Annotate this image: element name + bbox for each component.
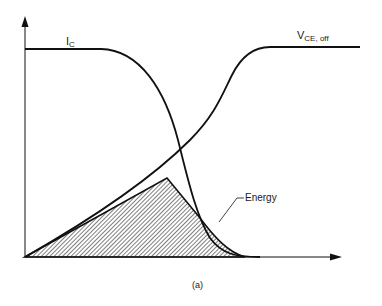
collector-current-label-sub: C [69, 40, 75, 49]
collector-emitter-voltage-label: VCE, off [297, 30, 329, 43]
energy-leader-line [219, 198, 244, 222]
energy-area [25, 178, 245, 257]
figure-caption: (a) [192, 281, 203, 290]
x-axis-arrow-icon [330, 254, 342, 261]
collector-current-label: IC [66, 36, 75, 49]
vce-label-sub: CE, off [304, 34, 328, 43]
y-axis-arrow-icon [22, 16, 29, 27]
energy-label: Energy [245, 193, 277, 203]
turn-off-waveform-diagram [0, 0, 382, 306]
